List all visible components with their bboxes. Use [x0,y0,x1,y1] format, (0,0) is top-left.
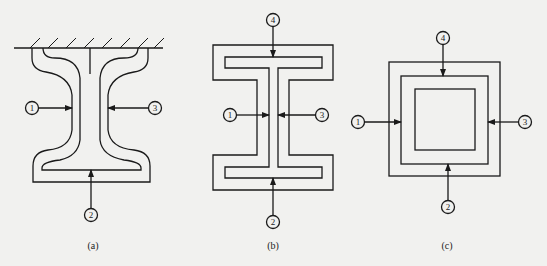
marker-label: 1 [356,117,361,127]
inner-profile [225,57,322,178]
marker-label: 3 [153,103,158,113]
marker-label: 4 [271,15,276,25]
wall-hatching [30,38,164,48]
diagram-canvas: 1 3 2 4 1 3 2 [0,0,547,266]
panel-a [14,38,164,222]
diagram-svg: 1 3 2 4 1 3 2 [0,0,547,266]
marker-label: 2 [446,202,451,212]
panel-c [352,32,532,214]
marker-label: 2 [271,217,276,227]
inner-square [415,89,475,150]
panel-b-numbers: 4 1 3 2 [228,15,325,227]
marker-label: 2 [89,210,94,220]
outer-square [389,62,500,176]
marker-label: 3 [320,110,325,120]
marker-label: 3 [523,117,528,127]
caption-b: (b) [267,240,279,251]
inner-profile [42,48,141,170]
marker-label: 1 [228,110,233,120]
caption-c: (c) [441,240,452,251]
panel-b [213,14,333,229]
marker-label: 4 [441,33,446,43]
marker-label: 1 [30,103,35,113]
caption-a: (a) [87,240,98,251]
